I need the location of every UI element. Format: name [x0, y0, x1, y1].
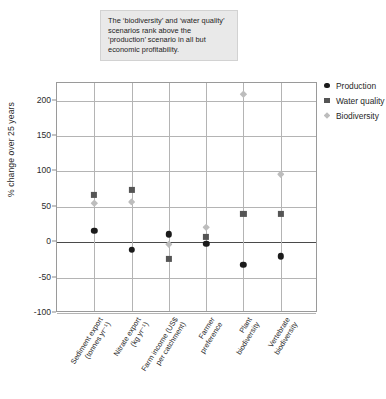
y-gridline: [57, 136, 316, 137]
y-gridline: [57, 278, 316, 279]
annotation-callout: The ‘biodiversity’ and ‘water quality’ s…: [100, 10, 238, 61]
data-point: [202, 224, 209, 231]
data-point: [278, 253, 284, 259]
x-gridline: [281, 83, 282, 311]
x-tick-label: Plantbiodiversity: [228, 316, 262, 356]
data-point: [240, 91, 247, 98]
x-tick-label: Farmerpreference: [191, 316, 224, 355]
x-gridline: [169, 83, 170, 311]
data-point: [203, 234, 209, 240]
legend-item[interactable]: Production: [322, 78, 385, 93]
y-gridline: [57, 101, 316, 102]
y-gridline: [57, 313, 316, 314]
y-tick-label: -50: [39, 272, 51, 282]
data-point: [128, 187, 134, 193]
chart-legend: ProductionWater qualityBiodiversity: [322, 78, 385, 123]
legend-item-label: Biodiversity: [336, 111, 379, 121]
square-marker-icon: [322, 98, 332, 104]
plot-area: [56, 82, 317, 312]
legend-item-label: Water quality: [336, 96, 385, 106]
x-gridline: [243, 83, 244, 311]
legend-item-label: Production: [336, 81, 376, 91]
x-tick-label: Vertebratebiodiversity: [265, 316, 299, 356]
x-gridline: [206, 83, 207, 311]
legend-item[interactable]: Water quality: [322, 93, 385, 108]
data-point: [278, 211, 284, 217]
x-gridline: [132, 83, 133, 311]
y-tick-label: -100: [34, 307, 51, 317]
y-tick-label: 0: [46, 236, 51, 246]
y-gridline: [57, 171, 316, 172]
data-point: [203, 240, 209, 246]
x-tick-label: Sediment export(tonnes yr⁻¹): [70, 316, 113, 371]
diamond-marker-icon: [322, 112, 332, 119]
data-point: [166, 255, 172, 261]
data-point: [128, 247, 134, 253]
y-tick-label: 50: [41, 201, 51, 211]
data-point: [128, 198, 135, 205]
y-tick-label: 200: [37, 95, 51, 105]
data-point: [166, 231, 172, 237]
y-tick-label: 150: [37, 130, 51, 140]
data-point: [240, 262, 246, 268]
data-point: [240, 211, 246, 217]
data-point: [91, 228, 97, 234]
y-axis: 200150100500-50-100: [0, 0, 56, 399]
data-point: [91, 192, 97, 198]
y-gridline: [57, 207, 316, 208]
legend-item[interactable]: Biodiversity: [322, 108, 385, 123]
circle-marker-icon: [322, 83, 332, 89]
y-tick-label: 100: [37, 165, 51, 175]
x-tick-label: Nitrate export(kg yr⁻¹): [112, 316, 150, 363]
y-gridline: [57, 242, 316, 243]
